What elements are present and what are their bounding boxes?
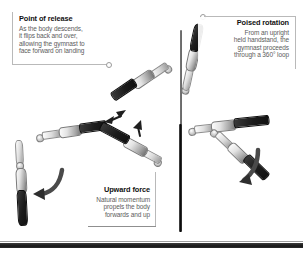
callout-line: propels the body bbox=[90, 203, 150, 211]
floor-bar bbox=[0, 241, 303, 253]
callout-line: held handstand, the bbox=[202, 36, 289, 44]
callout-upward-force: Upward force Natural momentum propels th… bbox=[88, 184, 156, 224]
floor-band bbox=[0, 243, 303, 248]
callout-title: Point of release bbox=[19, 15, 106, 24]
callout-right-rule bbox=[295, 17, 296, 69]
callout-line: From an upright bbox=[202, 29, 289, 37]
descent-direction-arrow bbox=[239, 150, 258, 185]
callout-line: face forward on landing bbox=[19, 47, 106, 55]
landing-direction-arrow bbox=[33, 170, 62, 200]
callout-right-rule bbox=[155, 172, 156, 226]
rotation-tick-arrow-3 bbox=[133, 120, 142, 136]
callout-line: Natural momentum bbox=[90, 196, 150, 204]
callout-left-rule bbox=[12, 12, 13, 64]
callout-title: Poised rotation bbox=[202, 19, 289, 28]
callout-line: As the body descends, bbox=[19, 25, 106, 33]
floor-hairline bbox=[0, 241, 303, 242]
callout-point-of-release: Point of release As the body descends, i… bbox=[12, 12, 110, 64]
callout-line: it flips back and over, bbox=[19, 32, 106, 40]
callout-line: through a 360° loop bbox=[202, 51, 289, 59]
callout-line: gymnast proceeds bbox=[202, 44, 289, 52]
callout-anchor-dot-point-of-release bbox=[106, 62, 112, 68]
rotation-tick-arrow-1 bbox=[104, 116, 121, 124]
infographic-canvas: Point of release As the body descends, i… bbox=[0, 0, 303, 255]
callout-line: allowing the gymnast to bbox=[19, 40, 106, 48]
callout-leader-line-upward-force bbox=[88, 226, 156, 227]
callout-poised-rotation: Poised rotation From an upright held han… bbox=[198, 17, 296, 69]
callout-leader-line-point-of-release bbox=[12, 64, 108, 65]
callout-title: Upward force bbox=[90, 186, 150, 195]
callout-line: forwards and up bbox=[90, 211, 150, 219]
